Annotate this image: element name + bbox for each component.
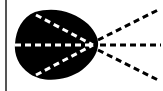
diagram-frame <box>0 0 163 91</box>
ray-lower-outer <box>98 50 158 80</box>
ray-upper-outer <box>98 10 158 40</box>
lens-rays-icon <box>0 0 163 91</box>
